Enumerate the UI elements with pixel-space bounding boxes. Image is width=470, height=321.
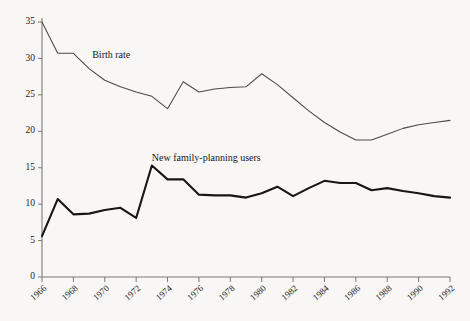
series-label-birth-rate: Birth rate — [92, 49, 131, 60]
series-line-family-planning — [42, 166, 450, 237]
x-tick-label: 1976 — [185, 283, 205, 303]
series-label-family-planning: New family-planning users — [152, 152, 261, 163]
series-line-birth-rate — [42, 22, 450, 140]
y-tick-label: 5 — [30, 235, 35, 245]
x-tick-label: 1970 — [91, 283, 111, 303]
y-tick-label: 0 — [30, 271, 35, 281]
x-tick-label: 1982 — [279, 283, 299, 302]
x-tick-label: 1972 — [122, 283, 142, 302]
x-tick-label: 1992 — [436, 283, 456, 302]
x-tick-label: 1978 — [217, 283, 237, 303]
x-tick-label: 1980 — [248, 283, 268, 303]
x-tick-label: 1974 — [154, 283, 174, 303]
y-tick-label: 30 — [26, 53, 36, 63]
y-tick-label: 35 — [26, 16, 36, 26]
x-tick-label: 1968 — [60, 283, 80, 303]
y-tick-label: 20 — [26, 125, 36, 135]
series-annotations: Birth rateNew family-planning users — [92, 49, 261, 163]
x-tick-label: 1984 — [311, 283, 331, 303]
y-axis-ticks: 05101520253035 — [26, 16, 43, 281]
y-tick-label: 25 — [26, 89, 36, 99]
y-tick-label: 10 — [26, 198, 36, 208]
x-tick-label: 1990 — [405, 283, 425, 303]
y-tick-label: 15 — [26, 162, 36, 172]
x-tick-label: 1986 — [342, 283, 362, 303]
line-chart: 05101520253035 1966196819701972197419761… — [0, 0, 470, 321]
x-axis-ticks: 1966196819701972197419761978198019821984… — [28, 277, 456, 303]
x-tick-label: 1966 — [28, 283, 48, 303]
x-tick-label: 1988 — [374, 283, 394, 303]
chart-page: 05101520253035 1966196819701972197419761… — [0, 0, 470, 321]
